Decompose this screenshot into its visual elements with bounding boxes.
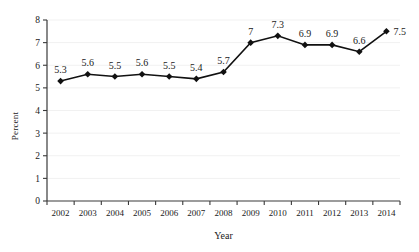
data-label: 5.5 [109, 60, 122, 71]
data-label: 5.4 [190, 62, 203, 73]
data-label: 5.6 [81, 57, 94, 68]
data-label: 5.7 [217, 55, 230, 66]
data-label: 7.3 [272, 19, 285, 30]
data-label: 6.9 [299, 28, 312, 39]
svg-text:2009: 2009 [242, 208, 261, 218]
svg-text:2013: 2013 [350, 208, 369, 218]
line-chart: Percent 012345678 2002200320042005200620… [0, 0, 419, 252]
svg-text:2010: 2010 [269, 208, 288, 218]
svg-text:7: 7 [35, 38, 40, 48]
svg-text:2008: 2008 [215, 208, 234, 218]
data-label: 7 [248, 26, 253, 37]
data-label: 7.5 [393, 26, 406, 37]
svg-text:2014: 2014 [377, 208, 396, 218]
data-label: 6.9 [326, 28, 339, 39]
svg-text:2011: 2011 [296, 208, 314, 218]
svg-text:4: 4 [35, 106, 40, 116]
data-point-labels: 5.35.65.55.65.55.45.777.36.96.96.67.5 [54, 19, 406, 75]
svg-text:6: 6 [35, 61, 40, 71]
data-label: 5.5 [163, 60, 176, 71]
svg-text:2006: 2006 [160, 208, 179, 218]
svg-text:2005: 2005 [133, 208, 152, 218]
svg-text:2: 2 [35, 151, 40, 161]
svg-text:2002: 2002 [52, 208, 70, 218]
chart-canvas: 012345678 200220032004200520062007200820… [0, 0, 419, 252]
data-label: 5.3 [54, 64, 67, 75]
x-axis-ticks [47, 201, 400, 205]
svg-text:2012: 2012 [323, 208, 341, 218]
x-axis-title: Year [47, 230, 400, 241]
y-axis-tick-labels: 012345678 [35, 15, 40, 206]
svg-text:2007: 2007 [187, 208, 206, 218]
data-label: 6.6 [353, 35, 366, 46]
svg-text:3: 3 [35, 129, 40, 139]
svg-text:2003: 2003 [79, 208, 98, 218]
svg-text:5: 5 [35, 83, 40, 93]
svg-text:0: 0 [35, 196, 40, 206]
svg-text:2004: 2004 [106, 208, 125, 218]
data-label: 5.6 [136, 57, 149, 68]
svg-text:8: 8 [35, 15, 40, 25]
svg-text:1: 1 [35, 174, 40, 184]
gridlines [47, 20, 400, 178]
x-axis-tick-labels: 2002200320042005200620072008200920102011… [52, 208, 396, 218]
